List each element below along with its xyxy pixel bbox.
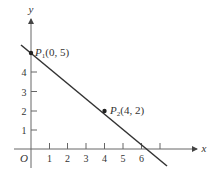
point-p2-label: P2(4, 2) <box>109 104 144 118</box>
x-tick-label-5: 5 <box>121 153 126 164</box>
point-p1-label: P1(0, 5) <box>34 46 69 60</box>
y-tick-labels: 1 2 3 4 <box>22 67 27 136</box>
y-tick-label-4: 4 <box>22 67 27 78</box>
x-tick-label-2: 2 <box>65 153 70 164</box>
y-tick-label-3: 3 <box>22 87 27 98</box>
point-p2 <box>102 109 106 113</box>
x-tick-label-6: 6 <box>139 153 144 164</box>
coordinate-plane: 1 2 3 4 5 6 1 2 3 4 O x y P1(0, 5) P2(4,… <box>0 0 212 177</box>
line-series <box>21 45 167 166</box>
x-tick-labels: 1 2 3 4 5 6 <box>47 153 144 164</box>
x-tick-label-4: 4 <box>102 153 107 164</box>
origin-label: O <box>20 152 28 164</box>
y-axis-label: y <box>28 3 34 15</box>
y-tick-label-1: 1 <box>22 125 27 136</box>
x-tick-label-1: 1 <box>47 153 52 164</box>
x-axis-label: x <box>201 142 207 154</box>
x-tick-label-3: 3 <box>84 153 89 164</box>
y-tick-label-2: 2 <box>22 106 27 117</box>
y-ticks <box>31 72 37 130</box>
point-p1 <box>29 51 33 55</box>
